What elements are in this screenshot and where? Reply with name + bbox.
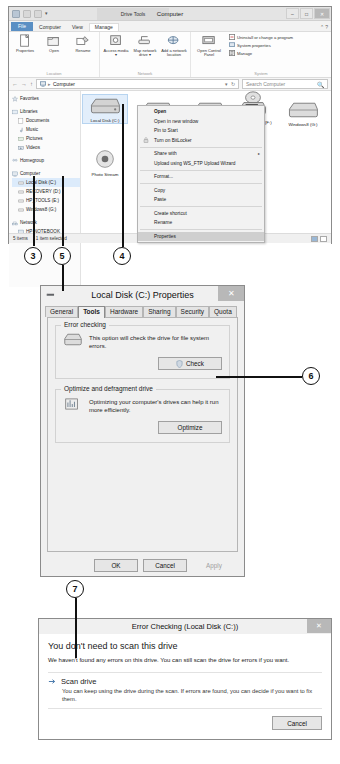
shield-icon xyxy=(176,360,183,368)
check-button[interactable]: Check xyxy=(158,357,222,370)
ribbon-button-open[interactable]: Open xyxy=(41,34,67,53)
context-menu-item-format[interactable]: Format... xyxy=(138,172,264,182)
sidebar-item-music[interactable]: Music xyxy=(12,125,80,134)
minimize-button[interactable]: – xyxy=(286,8,299,19)
large-icons-view-button[interactable] xyxy=(320,236,327,242)
shield-arrow-icon xyxy=(48,677,57,686)
sidebar-item-computer[interactable]: Computer xyxy=(12,169,80,178)
context-menu-item-paste[interactable]: Paste xyxy=(138,195,264,205)
ribbon-tab-computer[interactable]: Computer xyxy=(34,24,66,31)
breadcrumb-path[interactable]: Computer xyxy=(53,81,75,87)
sidebar-item-favorites[interactable]: Favorites xyxy=(12,94,80,103)
ribbon-tab-manage[interactable]: Manage xyxy=(89,23,119,31)
ribbon-tab-file[interactable]: File xyxy=(11,22,33,31)
status-item-count: 5 items xyxy=(13,236,28,241)
apply-button: Apply xyxy=(192,559,236,572)
context-menu-label-share-with: Share with xyxy=(154,151,177,156)
ribbon-button-access-media[interactable]: Access media ▾ xyxy=(103,34,129,58)
close-button[interactable]: ✕ xyxy=(307,619,331,633)
context-menu-item-upload-wsftp[interactable]: Upload using WS_FTP Upload Wizard xyxy=(138,159,264,169)
sidebar-label-music: Music xyxy=(26,127,38,132)
ribbon-button-manage[interactable]: Manage xyxy=(229,50,293,56)
ribbon-button-uninstall-program[interactable]: Uninstall or change a program xyxy=(229,34,293,40)
callout-leader-5-lower xyxy=(62,265,64,291)
context-menu-item-pin-to-start[interactable]: Pin to Start xyxy=(138,126,264,136)
sidebar-item-homegroup[interactable]: Homegroup xyxy=(12,156,80,165)
context-menu-item-rename[interactable]: Rename xyxy=(138,218,264,228)
sidebar-item-videos[interactable]: Videos xyxy=(12,143,80,152)
uninstall-icon xyxy=(229,34,235,40)
context-menu-item-copy[interactable]: Copy xyxy=(138,186,264,196)
explorer-window-title: Computer xyxy=(9,11,331,17)
sidebar-label-videos: Videos xyxy=(26,145,40,150)
optimize-button[interactable]: Optimize xyxy=(158,421,222,434)
cancel-button[interactable]: Cancel xyxy=(272,716,322,730)
sidebar-item-pictures[interactable]: Pictures xyxy=(12,134,80,143)
up-button[interactable]: ↑ xyxy=(30,81,33,87)
check-button-label: Check xyxy=(186,360,204,367)
computer-icon xyxy=(12,171,18,177)
tab-quota[interactable]: Quota xyxy=(209,306,237,318)
ribbon-label-manage: Manage xyxy=(237,51,252,56)
drive-tile-windows8-g[interactable]: Windows8 (G:) xyxy=(281,99,325,127)
sidebar-item-local-disk-c[interactable]: Local Disk (C:) xyxy=(12,178,80,187)
breadcrumb[interactable]: ▸ Computer ▾ ↻ xyxy=(36,79,239,89)
maximize-button[interactable]: □ xyxy=(300,8,313,19)
context-menu-item-share-with[interactable]: Share with ▸ xyxy=(138,149,264,159)
sidebar-item-libraries[interactable]: Libraries xyxy=(12,107,80,116)
scan-drive-title: Scan drive xyxy=(61,677,96,686)
breadcrumb-dropdown-icon[interactable]: ▾ xyxy=(225,81,228,87)
refresh-icon[interactable]: ↻ xyxy=(231,81,235,87)
drive-icon xyxy=(18,198,24,204)
sidebar-item-hp-tools-e[interactable]: HP_TOOLS (E:) xyxy=(12,196,80,205)
tab-tools[interactable]: Tools xyxy=(78,306,105,319)
sidebar-item-recovery-d[interactable]: RECOVERY (D:) xyxy=(12,187,80,196)
close-button[interactable]: ✕ xyxy=(218,286,244,301)
tab-general[interactable]: General xyxy=(45,306,78,318)
scan-drive-option[interactable]: Scan drive You can keep using the drive … xyxy=(48,672,322,710)
ribbon-button-map-network-drive[interactable]: Map network drive ▾ xyxy=(132,34,158,58)
ribbon-group-label-system: System xyxy=(194,71,328,77)
submenu-arrow-icon: ▸ xyxy=(258,151,260,156)
hard-drive-icon xyxy=(88,95,122,117)
properties-dialog-footer: OK Cancel Apply xyxy=(41,552,244,572)
ribbon-tab-view[interactable]: View xyxy=(67,24,88,31)
ribbon-button-open-control-panel[interactable]: Open Control Panel xyxy=(194,34,224,58)
context-menu-item-open[interactable]: Open xyxy=(138,107,264,117)
ok-button[interactable]: OK xyxy=(94,559,138,572)
callout-leader-5-upper xyxy=(62,176,64,246)
homegroup-icon xyxy=(12,158,18,164)
ribbon-button-properties[interactable]: Properties xyxy=(12,34,38,53)
context-menu-separator xyxy=(140,206,262,207)
search-input[interactable]: Search Computer 🔍 xyxy=(242,79,328,89)
tools-tab-page: Error checking This option will check th… xyxy=(47,317,238,552)
sidebar-label-homegroup: Homegroup xyxy=(20,158,44,163)
sidebar-item-documents[interactable]: Documents xyxy=(12,116,80,125)
close-button[interactable]: ✕ xyxy=(314,8,330,19)
tab-security[interactable]: Security xyxy=(176,306,209,318)
drive-context-menu[interactable]: Open Open in new window Pin to Start Tur… xyxy=(137,105,265,243)
forward-button[interactable]: → xyxy=(21,81,27,87)
context-menu-item-create-shortcut[interactable]: Create shortcut xyxy=(138,209,264,219)
details-view-button[interactable] xyxy=(311,236,318,242)
ribbon-help-icon[interactable]: ⌃ ? xyxy=(320,24,328,30)
drive-tile-photo-stream[interactable]: Photo Stream xyxy=(83,147,127,177)
sidebar-item-windows8-g[interactable]: Windows8 (G:) xyxy=(12,205,80,214)
sidebar-item-network[interactable]: Network xyxy=(12,218,80,227)
drive-tile-local-disk-c[interactable]: Local Disk (C:) xyxy=(83,95,127,123)
ribbon-button-system-properties[interactable]: System properties xyxy=(229,42,293,48)
context-menu-item-open-in-new-window[interactable]: Open in new window xyxy=(138,117,264,127)
sidebar-label-favorites: Favorites xyxy=(20,96,39,101)
tab-hardware[interactable]: Hardware xyxy=(105,306,143,318)
ribbon-label-add-network-location: Add a network location xyxy=(161,49,187,58)
context-menu-item-properties[interactable]: Properties xyxy=(138,232,264,242)
open-icon xyxy=(47,34,61,48)
tab-sharing[interactable]: Sharing xyxy=(143,306,175,318)
ribbon-button-rename[interactable]: Rename xyxy=(70,34,96,53)
cancel-button[interactable]: Cancel xyxy=(143,559,187,572)
ribbon-button-add-network-location[interactable]: Add a network location xyxy=(161,34,187,58)
ribbon-group-system: Open Control Panel Uninstall or change a… xyxy=(191,32,331,77)
error-checking-legend: Error checking xyxy=(61,321,109,328)
context-menu-item-turn-on-bitlocker[interactable]: Turn on BitLocker xyxy=(138,136,264,146)
back-button[interactable]: ← xyxy=(12,81,18,87)
